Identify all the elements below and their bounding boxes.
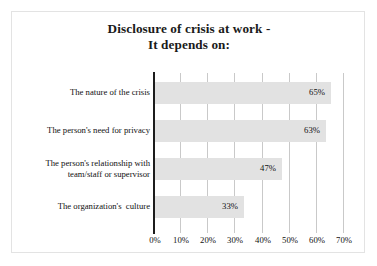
x-tick-label-70: 70% (324, 235, 364, 246)
bar-value-label: 63% (290, 125, 320, 136)
chart-card: Disclosure of crisis at work - It depend… (11, 11, 365, 253)
bar-value-label: 47% (246, 163, 276, 174)
bar-value-label: 65% (295, 87, 325, 98)
category-label: The organization's culture (14, 201, 150, 212)
plot-area: The nature of the crisis 65% The person'… (12, 12, 366, 254)
bar-row: The person's need for privacy 63% (12, 112, 366, 150)
category-label: The person's need for privacy (14, 125, 150, 136)
category-label: The nature of the crisis (14, 87, 150, 98)
bar-row: The nature of the crisis 65% (12, 74, 366, 112)
bar-row: The person's relationship with team/staf… (12, 150, 366, 188)
bar-row: The organization's culture 33% (12, 188, 366, 226)
category-label: The person's relationship with team/staf… (14, 158, 150, 179)
bar-value-label: 33% (208, 201, 238, 212)
